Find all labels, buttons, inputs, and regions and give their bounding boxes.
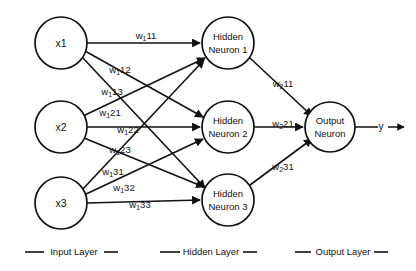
node-x3[interactable]: x3 [35, 177, 87, 229]
legend-label-hidden-layer: Hidden Layer [183, 246, 240, 257]
weight-w131-post: 31 [113, 166, 124, 177]
node-hidden-neuron-2-label-line1: Hidden [213, 115, 243, 126]
weight-w121-base: w [98, 107, 106, 118]
node-hidden-neuron-3-label-line1: Hidden [213, 188, 243, 199]
weight-w121-post: 21 [110, 107, 121, 118]
edge-x3-h1 [82, 60, 204, 190]
weight-label-w132: w132 [112, 182, 134, 194]
weight-w122-base: w [116, 124, 124, 135]
node-hidden-neuron-3[interactable]: Hidden Neuron 3 [202, 174, 254, 226]
output-layer-group: Output Neuron [305, 102, 355, 152]
input-to-hidden-edges [82, 43, 205, 203]
weight-label-w123: w123 [108, 144, 130, 156]
weight-w123-post: 23 [120, 144, 131, 155]
weight-label-w112: w112 [108, 64, 130, 76]
node-hidden-neuron-2-label-line2: Neuron 2 [208, 128, 247, 139]
weight-w132-base: w [112, 182, 120, 193]
node-hidden-neuron-2[interactable]: Hidden Neuron 2 [202, 101, 254, 153]
legend-label-output-layer: Output Layer [316, 246, 371, 257]
weight-w112-base: w [108, 64, 116, 75]
node-x3-label: x3 [55, 197, 66, 209]
input-layer-group: x1 x2 x3 [35, 17, 87, 229]
weight-label-w133: w133 [128, 199, 150, 211]
node-hidden-neuron-1-label-line1: Hidden [213, 31, 243, 42]
legend-item-hidden-layer: Hidden Layer [160, 246, 257, 257]
node-output-neuron-label-line1: Output [316, 115, 345, 126]
legend-label-input-layer: Input Layer [50, 246, 98, 257]
weight-w211-post: 11 [283, 78, 293, 89]
weight-label-w111: w111 [135, 30, 157, 42]
legend: Input Layer Hidden Layer Output Layer [25, 246, 388, 257]
weight-w131-base: w [101, 166, 109, 177]
weight-w231-base: w [271, 161, 279, 172]
network-canvas: y x1 x2 x3 Hidden Neuron 1 [0, 0, 416, 271]
node-output-neuron-label-line2: Neuron [314, 128, 345, 139]
neural-network-diagram: y x1 x2 x3 Hidden Neuron 1 [0, 0, 416, 271]
node-hidden-neuron-1-label-line2: Neuron 1 [208, 44, 247, 55]
output-signal: y [355, 121, 404, 132]
weight-w231-post: 31 [283, 161, 294, 172]
weight-w133-base: w [128, 199, 136, 210]
legend-item-input-layer: Input Layer [25, 246, 118, 257]
weight-w112-post: 12 [120, 64, 131, 75]
weight-w123-base: w [108, 144, 116, 155]
node-x1[interactable]: x1 [35, 17, 87, 69]
weight-w111-base: w [135, 30, 143, 41]
weight-label-w231: w231 [271, 161, 293, 173]
weight-label-w122: w122 [116, 124, 138, 136]
weight-w132-post: 32 [124, 182, 135, 193]
weight-label-w221: w221 [271, 118, 293, 130]
node-x2[interactable]: x2 [35, 101, 87, 153]
node-hidden-neuron-3-label-line2: Neuron 3 [208, 201, 247, 212]
legend-item-output-layer: Output Layer [295, 246, 388, 257]
weight-w113-post: 13 [112, 86, 123, 97]
weight-w221-post: 21 [283, 118, 294, 129]
weight-w221-base: w [271, 118, 279, 129]
weight-w122-post: 22 [128, 124, 139, 135]
node-output-neuron[interactable]: Output Neuron [305, 102, 355, 152]
weight-label-w131: w131 [101, 166, 123, 178]
weight-label-w211: w211 [272, 78, 294, 90]
node-hidden-neuron-1[interactable]: Hidden Neuron 1 [202, 17, 254, 69]
weight-w111-post: 11 [146, 30, 156, 41]
weight-w133-post: 33 [140, 199, 151, 210]
edge-x2-h3 [84, 138, 204, 187]
weight-label-w121: w121 [98, 107, 120, 119]
weight-label-w113: w113 [100, 86, 122, 98]
edge-h3-o1 [250, 139, 312, 185]
output-signal-label: y [379, 121, 384, 132]
node-x1-label: x1 [55, 37, 66, 49]
weight-w211-base: w [272, 78, 280, 89]
node-x2-label: x2 [55, 121, 66, 133]
hidden-layer-group: Hidden Neuron 1 Hidden Neuron 2 Hidden N… [202, 17, 254, 226]
weight-w113-base: w [100, 86, 108, 97]
hidden-to-output-weight-labels: w211 w221 w231 [271, 78, 293, 173]
